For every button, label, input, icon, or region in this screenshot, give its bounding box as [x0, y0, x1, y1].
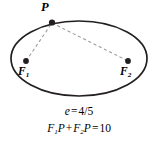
focal-sum-value: 10	[99, 122, 111, 134]
equation-eccentricity: e=4/5	[0, 106, 158, 118]
point-p-label-text: P	[41, 0, 49, 14]
focal-sum-term1-subscript: 1	[54, 128, 58, 136]
focus-f1-label: F1	[18, 66, 29, 78]
focus-f1-label-subscript: 1	[26, 71, 30, 79]
point-p-marker	[49, 19, 55, 25]
segment-p-to-f2	[52, 23, 128, 61]
focal-sum-term1-point: P	[58, 122, 65, 134]
focus-f2-marker	[125, 58, 131, 64]
focal-sum-plus-sign: +	[65, 122, 74, 134]
equation-focal-sum: F1P+F2P=10	[0, 123, 158, 135]
focal-sum-term2-subscript: 2	[80, 128, 84, 136]
focus-f2-label-subscript: 2	[128, 71, 132, 79]
focus-f2-label: F2	[120, 66, 131, 78]
focus-f2-label-base: F	[120, 65, 128, 77]
ellipse-figure: P F1 F2 e=4/5 F1P+F2P=10	[0, 0, 158, 142]
focus-f1-marker	[23, 58, 29, 64]
focus-f1-label-base: F	[18, 65, 26, 77]
point-p-label: P	[41, 1, 49, 14]
focal-sum-term2-point: P	[84, 122, 91, 134]
eccentricity-value: 4/5	[78, 105, 93, 117]
